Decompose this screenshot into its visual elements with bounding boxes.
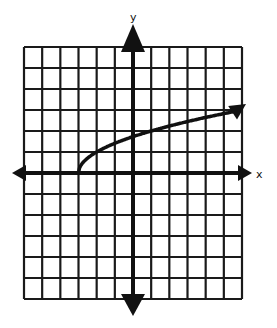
y-axis-label: y	[130, 11, 137, 24]
coordinate-plane: y x	[0, 0, 277, 328]
x-axis-right-arrow-icon	[238, 165, 252, 181]
function-curve	[79, 111, 235, 173]
x-axis-label: x	[256, 168, 263, 181]
x-axis-left-arrow-icon	[12, 165, 26, 181]
y-axis-up-arrow-icon	[121, 24, 145, 52]
y-axis-down-arrow-icon	[121, 294, 145, 316]
